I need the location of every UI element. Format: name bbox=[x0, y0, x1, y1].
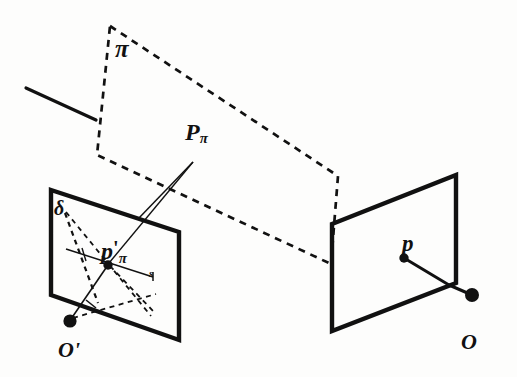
label-point-p-pi-prime-subscript: π bbox=[119, 250, 127, 266]
label-point-P-pi-subscript: π bbox=[200, 130, 208, 146]
diagram-svg bbox=[0, 0, 517, 377]
ray-Ppi-to-left-plane-edge bbox=[138, 162, 193, 219]
right-image-plane bbox=[332, 175, 456, 331]
label-point-P-pi-base: P bbox=[185, 119, 200, 145]
label-point-p-pi-prime-base: p bbox=[101, 238, 113, 264]
label-point-P-pi: Pπ bbox=[185, 120, 208, 146]
dot-O bbox=[465, 288, 479, 302]
scene-line-stub bbox=[26, 88, 96, 120]
scene-plane-pi-outline bbox=[97, 26, 338, 264]
label-plane-pi: π bbox=[115, 36, 129, 61]
label-point-p-pi-prime: p'π bbox=[101, 238, 127, 266]
label-line-s: s bbox=[149, 268, 153, 279]
label-center-O: O bbox=[461, 331, 477, 353]
label-line-delta: δ bbox=[54, 198, 64, 218]
scene-plane-pi-group bbox=[97, 26, 338, 264]
dot-O-prime bbox=[63, 314, 76, 327]
label-center-O-prime: O' bbox=[58, 339, 80, 361]
label-point-p: p bbox=[402, 232, 414, 255]
figure-canvas: π Pπ δ p'π s O' p O bbox=[0, 0, 517, 377]
